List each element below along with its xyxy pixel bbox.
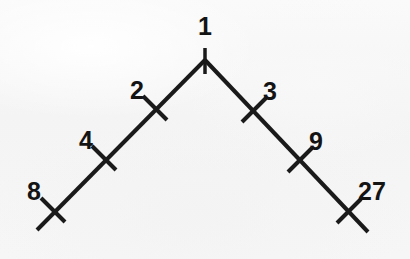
node-label-9: 9: [309, 129, 323, 154]
branch-group-left: [37, 60, 205, 230]
node-label-27: 27: [358, 179, 386, 204]
node-label-1: 1: [198, 14, 212, 39]
node-label-2: 2: [130, 78, 144, 103]
branch-line-left: [37, 60, 205, 230]
tick-mark-node-4: [92, 146, 116, 170]
node-label-3: 3: [263, 79, 277, 104]
node-label-8: 8: [27, 179, 41, 204]
branch-line-right: [205, 60, 368, 232]
figure-canvas: 1 2 3 4 9 8 27: [0, 0, 410, 259]
tick-mark-node-8: [41, 198, 65, 222]
branch-group-right: [205, 60, 368, 232]
node-label-4: 4: [79, 128, 93, 153]
